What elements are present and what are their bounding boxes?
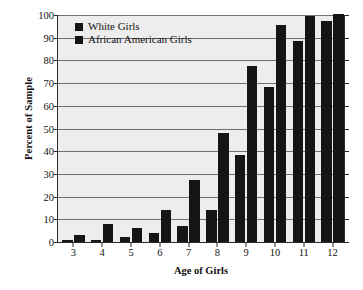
x-axis-tick-label-7: 7 <box>186 247 191 258</box>
y-axis-tick-label: 100 <box>38 10 54 21</box>
right-axis-tick-mark <box>344 242 349 243</box>
right-axis-tick-mark <box>344 151 349 152</box>
x-axis-tick-mark <box>159 242 160 247</box>
x-axis-tick-label-8: 8 <box>215 247 220 258</box>
x-axis-tick-mark <box>73 242 74 247</box>
bar-white-girls-age-12 <box>321 21 332 242</box>
right-axis-tick-mark <box>344 129 349 130</box>
bar-group <box>149 15 172 242</box>
bar-white-girls-age-3 <box>62 240 73 242</box>
right-axis-tick-mark <box>344 60 349 61</box>
x-axis-tick-label-6: 6 <box>157 247 162 258</box>
bar-white-girls-age-11 <box>293 41 304 242</box>
bar-white-girls-age-6 <box>149 233 160 242</box>
y-axis-tick-mark <box>54 242 58 243</box>
bar-african-american-girls-age-11 <box>305 16 316 242</box>
right-axis-tick-mark <box>344 38 349 39</box>
x-axis-tick-mark <box>188 242 189 247</box>
bar-white-girls-age-10 <box>264 87 275 242</box>
y-axis-tick-label: 50 <box>44 123 55 134</box>
x-axis-title: Age of Girls <box>57 265 345 276</box>
bar-group <box>264 15 287 242</box>
x-axis-tick-label-4: 4 <box>100 247 105 258</box>
x-axis-tick-mark <box>275 242 276 247</box>
bar-group <box>235 15 258 242</box>
legend-swatch-african-american-girls <box>75 36 83 44</box>
x-axis-tick-label-3: 3 <box>71 247 76 258</box>
x-axis-tick-label-10: 10 <box>270 247 281 258</box>
right-axis-tick-mark <box>344 83 349 84</box>
x-axis-tick-label-12: 12 <box>327 247 338 258</box>
y-axis-tick-label: 60 <box>44 100 55 111</box>
y-axis-tick-label: 20 <box>44 191 55 202</box>
bar-white-girls-age-9 <box>235 155 246 242</box>
plot-area: 0102030405060708090100 3456789101112 <box>57 15 345 243</box>
right-axis-tick-mark <box>344 174 349 175</box>
right-axis-tick-mark <box>344 197 349 198</box>
legend-label-white-girls: White Girls <box>88 21 140 32</box>
right-axis-tick-mark <box>344 219 349 220</box>
bar-african-american-girls-age-4 <box>103 224 114 242</box>
y-axis-tick-label: 10 <box>44 214 55 225</box>
bar-african-american-girls-age-10 <box>276 25 287 242</box>
legend-label-african-american-girls: African American Girls <box>88 34 192 45</box>
bar-group <box>293 15 316 242</box>
chart-legend: White Girls African American Girls <box>75 21 192 45</box>
x-axis-tick-mark <box>102 242 103 247</box>
legend-item-african-american-girls: African American Girls <box>75 34 192 45</box>
bar-african-american-girls-age-8 <box>218 133 229 242</box>
bar-white-girls-age-8 <box>206 210 217 242</box>
bar-white-girls-age-4 <box>91 240 102 242</box>
legend-item-white-girls: White Girls <box>75 21 192 32</box>
right-axis-tick-mark <box>344 106 349 107</box>
bar-group <box>62 15 85 242</box>
x-axis-tick-mark <box>303 242 304 247</box>
x-axis-tick-label-9: 9 <box>244 247 249 258</box>
bar-chart-figure: Percent of Sample 0102030405060708090100… <box>0 0 363 290</box>
x-axis-tick-mark <box>217 242 218 247</box>
right-axis-tick-mark <box>344 15 349 16</box>
bar-group <box>177 15 200 242</box>
y-axis-tick-label: 90 <box>44 32 55 43</box>
x-axis-tick-mark <box>131 242 132 247</box>
bar-group <box>321 15 344 242</box>
bar-african-american-girls-age-5 <box>132 228 143 242</box>
bar-white-girls-age-7 <box>177 226 188 242</box>
bar-african-american-girls-age-3 <box>74 235 85 242</box>
y-axis-tick-label: 70 <box>44 78 55 89</box>
bar-african-american-girls-age-6 <box>161 210 172 242</box>
y-axis-tick-label: 40 <box>44 146 55 157</box>
bar-african-american-girls-age-7 <box>189 180 200 242</box>
x-axis-tick-mark <box>332 242 333 247</box>
bars-layer: 3456789101112 <box>58 15 344 242</box>
bar-group <box>91 15 114 242</box>
legend-swatch-white-girls <box>75 23 83 31</box>
x-axis-tick-label-11: 11 <box>299 247 309 258</box>
x-axis-tick-mark <box>246 242 247 247</box>
y-axis-tick-label: 30 <box>44 168 55 179</box>
bar-group <box>206 15 229 242</box>
y-axis-title: Percent of Sample <box>23 39 34 199</box>
bar-white-girls-age-5 <box>120 237 131 242</box>
y-axis-tick-label: 80 <box>44 55 55 66</box>
bar-african-american-girls-age-12 <box>333 14 344 242</box>
bar-group <box>120 15 143 242</box>
x-axis-tick-label-5: 5 <box>128 247 133 258</box>
bar-african-american-girls-age-9 <box>247 66 258 242</box>
